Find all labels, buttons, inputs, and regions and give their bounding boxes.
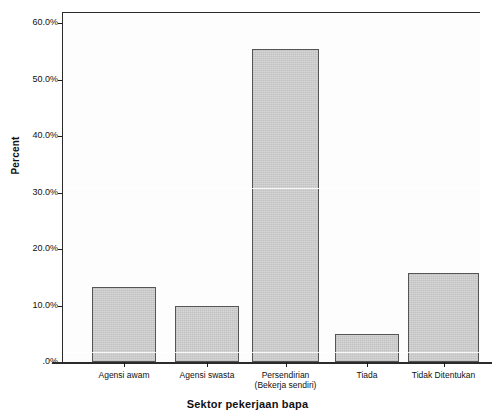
y-axis-ticks: .0%10.0%20.0%30.0%40.0%50.0%60.0%	[10, 0, 58, 419]
bar	[175, 306, 239, 363]
y-tick-label: 30.0%	[12, 188, 58, 197]
y-tick-label: 50.0%	[12, 75, 58, 84]
y-tick-label: 60.0%	[12, 18, 58, 27]
x-tick-label: Tidak Ditentukan	[394, 370, 494, 380]
x-tick-mark	[207, 362, 208, 367]
scan-artifact	[63, 188, 480, 189]
bar-chart: Percent .0%10.0%20.0%30.0%40.0%50.0%60.0…	[0, 0, 495, 419]
scan-artifact	[63, 352, 480, 353]
bar	[408, 273, 479, 362]
bars-layer	[62, 12, 480, 362]
y-tick-label: 20.0%	[12, 244, 58, 253]
x-tick-mark	[367, 362, 368, 367]
x-axis-title: Sektor pekerjaan bapa	[0, 398, 495, 410]
bar	[335, 334, 399, 362]
x-axis-ticks: Agensi awamAgensi swastaPersendirian (Be…	[0, 362, 495, 419]
x-tick-mark	[286, 362, 287, 367]
y-tick-label: 10.0%	[12, 301, 58, 310]
bar	[92, 287, 156, 362]
x-tick-mark	[444, 362, 445, 367]
x-tick-mark	[124, 362, 125, 367]
y-tick-label: 40.0%	[12, 131, 58, 140]
bar	[252, 49, 319, 362]
